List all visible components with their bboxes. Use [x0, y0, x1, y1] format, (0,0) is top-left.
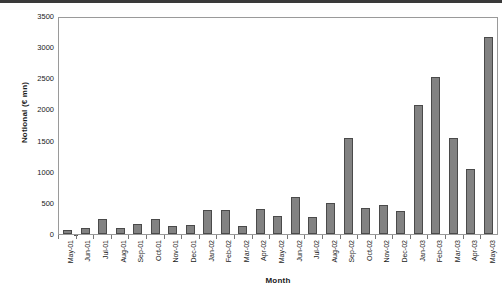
- bar-slot: [269, 18, 287, 234]
- x-axis-tick-label: Nov-02: [383, 240, 390, 263]
- x-axis-tick-label: Oct-01: [155, 240, 162, 261]
- x-axis-label-slot: Jul-02: [304, 240, 322, 274]
- bar-slot: [479, 18, 497, 234]
- x-axis-tick-slot: [181, 235, 199, 239]
- bar: [186, 225, 195, 234]
- bar-slot: [112, 18, 130, 234]
- x-axis-tick-label: Feb-03: [436, 240, 443, 262]
- bar: [151, 219, 160, 234]
- x-axis-tick-label: Oct-02: [366, 240, 373, 261]
- bar-slot: [444, 18, 462, 234]
- x-axis-tick-slot: [375, 235, 393, 239]
- x-axis-tick-label: Jan-03: [419, 240, 426, 261]
- x-axis-tick-mark: [427, 235, 428, 239]
- bar: [308, 217, 317, 234]
- bar-slot: [357, 18, 375, 234]
- x-axis-tick-slot: [410, 235, 428, 239]
- bar: [81, 228, 90, 234]
- x-axis-tick-mark: [410, 235, 411, 239]
- x-axis-tick-mark: [480, 235, 481, 239]
- bar-slot: [182, 18, 200, 234]
- x-axis-label-slot: Jun-01: [76, 240, 94, 274]
- bar-slot: [199, 18, 217, 234]
- bar: [203, 210, 212, 234]
- x-axis-label-slot: Jan-02: [199, 240, 217, 274]
- x-axis-tick-slot: [322, 235, 340, 239]
- x-axis-tick-mark: [111, 235, 112, 239]
- bar: [116, 228, 125, 234]
- x-axis-tick-mark: [146, 235, 147, 239]
- x-axis-tick-mark: [287, 235, 288, 239]
- x-axis-tick-slot: [58, 235, 76, 239]
- x-axis-tick-slot: [427, 235, 445, 239]
- y-axis-tick-label: 3500: [18, 13, 54, 21]
- x-axis-label-slot: Sep-02: [340, 240, 358, 274]
- bar: [361, 208, 370, 234]
- y-axis-tick-label: 1500: [18, 138, 54, 146]
- x-axis-tick-slot: [445, 235, 463, 239]
- y-axis-tick-label: 1000: [18, 169, 54, 177]
- x-axis-tick-mark: [392, 235, 393, 239]
- bar-slot: [234, 18, 252, 234]
- x-axis-tick-mark: [445, 235, 446, 239]
- x-axis-label-slot: Jun-02: [287, 240, 305, 274]
- bar: [449, 138, 458, 234]
- bar: [98, 219, 107, 234]
- bar: [221, 210, 230, 234]
- x-axis-tick-label: May-03: [489, 240, 496, 263]
- x-axis-tick-slot: [392, 235, 410, 239]
- plot-area: [58, 17, 498, 235]
- bar: [466, 169, 475, 234]
- x-axis-tick-mark: [164, 235, 165, 239]
- bar: [133, 224, 142, 234]
- x-axis-tick-mark: [128, 235, 129, 239]
- y-axis-tick-label: 2000: [18, 106, 54, 114]
- x-axis-tick-mark: [199, 235, 200, 239]
- x-axis-label-slot: Oct-01: [146, 240, 164, 274]
- x-axis-label-slot: Feb-02: [216, 240, 234, 274]
- bar: [273, 216, 282, 234]
- x-axis-label-slot: Oct-02: [357, 240, 375, 274]
- x-axis-label-slot: Feb-03: [427, 240, 445, 274]
- x-axis-tick-label: Apr-03: [471, 240, 478, 261]
- x-axis-tick-slot: [76, 235, 94, 239]
- x-axis-title: Month: [58, 276, 498, 285]
- x-axis-tick-mark: [269, 235, 270, 239]
- x-axis-tick-label: Mar-03: [454, 240, 461, 262]
- x-axis-tick-slot: [128, 235, 146, 239]
- x-axis-tick-mark: [463, 235, 464, 239]
- bar: [484, 37, 493, 234]
- x-axis-tick-label: May-02: [278, 240, 285, 263]
- bar: [344, 138, 353, 234]
- y-axis-tick-label: 500: [18, 200, 54, 208]
- bar: [168, 226, 177, 234]
- x-axis-label-slot: Sep-01: [128, 240, 146, 274]
- x-axis-tick-mark: [340, 235, 341, 239]
- bar-slot: [59, 18, 77, 234]
- x-axis-tick-slot: [199, 235, 217, 239]
- x-axis-tick-label: Apr-02: [260, 240, 267, 261]
- x-axis-tick-label: Jul-01: [102, 240, 109, 259]
- bar: [291, 197, 300, 234]
- x-axis-label-slot: Mar-02: [234, 240, 252, 274]
- bar: [326, 203, 335, 234]
- x-axis-tick-slot: [146, 235, 164, 239]
- x-axis-tick-label: Aug-01: [120, 240, 127, 263]
- x-axis-tick-mark: [216, 235, 217, 239]
- x-axis-tick-label: Aug-02: [331, 240, 338, 263]
- bar-slot: [147, 18, 165, 234]
- x-axis-tick-slot: [340, 235, 358, 239]
- x-axis-tick-label: Feb-02: [225, 240, 232, 262]
- bar: [238, 226, 247, 234]
- x-axis-tick-label: Mar-02: [243, 240, 250, 262]
- bar-slot: [164, 18, 182, 234]
- y-axis-tick-label: 0: [18, 231, 54, 239]
- x-axis-tick-slot: [216, 235, 234, 239]
- x-axis-tick-slot: [287, 235, 305, 239]
- x-axis-tick-label: Dec-02: [401, 240, 408, 263]
- x-axis-tick-slot: [252, 235, 270, 239]
- bars-layer: [59, 18, 497, 234]
- x-axis-tick-label: Sep-01: [137, 240, 144, 263]
- bar-slot: [217, 18, 235, 234]
- x-axis-label-slot: Dec-01: [181, 240, 199, 274]
